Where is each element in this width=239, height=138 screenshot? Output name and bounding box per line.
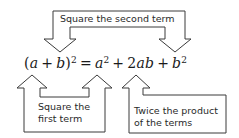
bottom-right-line-1: Twice the product	[134, 105, 218, 117]
lhs-a: a	[30, 55, 39, 71]
term3-exponent: 2	[181, 55, 187, 65]
bottom-left-callout-label: Square the first term	[38, 101, 90, 125]
bottom-left-line-1: Square the	[38, 101, 90, 113]
equals-sign: =	[77, 55, 95, 71]
bottom-right-line-2: of the terms	[134, 117, 218, 129]
term2-vars: ab	[136, 55, 154, 71]
binomial-equation: (a+b)2=a2+2ab+b2	[24, 55, 187, 71]
binomial-square-diagram: Square the second term (a+b)2=a2+2ab+b2 …	[0, 0, 239, 138]
bottom-left-line-2: first term	[38, 113, 90, 125]
term3-var: b	[172, 55, 181, 71]
plus-2: +	[154, 55, 172, 71]
plus-1: +	[109, 55, 127, 71]
top-callout-label: Square the second term	[60, 13, 175, 25]
bottom-right-callout-label: Twice the product of the terms	[134, 105, 218, 129]
lhs-plus: +	[38, 55, 56, 71]
lhs-b: b	[56, 55, 65, 71]
